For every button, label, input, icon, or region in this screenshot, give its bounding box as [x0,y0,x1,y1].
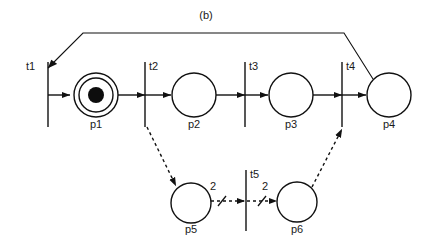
place-p5[interactable] [171,183,211,223]
petri-net-canvas: p1 p2 p3 p4 p5 p6 t1 t2 t3 t4 t5 2 2 (b) [0,0,432,244]
transition-label-t4: t4 [346,60,355,72]
weighted-arcs [211,196,277,206]
place-label-p2: p2 [188,118,200,130]
place-labels: p1 p2 p3 p4 p5 p6 [90,118,395,235]
arc-t2-p5 [147,127,176,186]
transition-label-t3: t3 [249,60,258,72]
arc-p6-t4 [312,129,342,187]
arc-weight-labels: 2 2 [210,180,268,192]
place-p1-token [88,87,104,103]
figure-caption: (b) [199,9,212,21]
place-label-p5: p5 [185,223,197,235]
place-p2[interactable] [172,73,216,117]
petri-net-figure: p1 p2 p3 p4 p5 p6 t1 t2 t3 t4 t5 2 2 (b) [0,0,432,244]
transition-label-t1: t1 [26,60,35,72]
place-p3[interactable] [269,73,313,117]
arc-p4-t1-feedback [48,33,373,79]
place-label-p3: p3 [285,118,297,130]
transition-label-t5: t5 [250,168,259,180]
place-label-p4: p4 [383,118,395,130]
place-p4[interactable] [367,73,411,117]
arc-weight-t5-p6: 2 [262,180,268,192]
place-label-p6: p6 [291,223,303,235]
dashed-arcs [147,127,342,187]
place-p6[interactable] [277,182,317,222]
feedback-arc-path [48,33,373,79]
place-label-p1: p1 [90,118,102,130]
transition-label-t2: t2 [149,60,158,72]
arc-weight-p5-t5: 2 [210,180,216,192]
